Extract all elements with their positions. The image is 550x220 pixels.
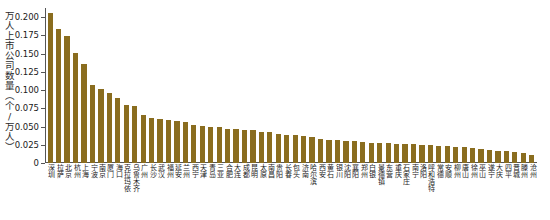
bar[interactable] bbox=[166, 120, 171, 163]
bar[interactable] bbox=[352, 141, 357, 163]
bar[interactable] bbox=[259, 132, 264, 163]
bar[interactable] bbox=[369, 143, 374, 163]
bar[interactable] bbox=[208, 127, 213, 163]
x-tick-label: 杭州 bbox=[72, 164, 80, 178]
bar[interactable] bbox=[411, 144, 416, 163]
bar-slot bbox=[240, 8, 248, 163]
bar[interactable] bbox=[90, 85, 95, 163]
x-tick-label: 巫山 bbox=[478, 164, 486, 178]
x-tick-label: 晋城 bbox=[511, 164, 519, 178]
x-tick-label: 厦门 bbox=[106, 164, 114, 178]
bar[interactable] bbox=[157, 119, 162, 163]
bar[interactable] bbox=[360, 142, 365, 163]
bar-slot bbox=[333, 8, 341, 163]
bar[interactable] bbox=[436, 146, 441, 164]
bar[interactable] bbox=[276, 134, 281, 163]
bar[interactable] bbox=[293, 135, 298, 163]
bar-slot bbox=[173, 8, 181, 163]
x-tick-label: 太原 bbox=[258, 164, 266, 178]
bar[interactable] bbox=[402, 144, 407, 163]
bar[interactable] bbox=[81, 64, 86, 163]
bar[interactable] bbox=[495, 151, 500, 163]
x-tick-label: 大庆 bbox=[494, 164, 502, 178]
bar-slot bbox=[215, 8, 223, 163]
bar-slot bbox=[198, 8, 206, 163]
bar-slot bbox=[164, 8, 172, 163]
bar[interactable] bbox=[470, 148, 475, 163]
bar[interactable] bbox=[512, 152, 517, 163]
y-tick-label: 0.200 bbox=[15, 12, 39, 22]
x-tick-label: 遂宁 bbox=[486, 164, 494, 178]
x-tick-label: 乌鲁木齐 bbox=[131, 164, 139, 192]
x-axis-tick-labels: 深圳拉萨北京杭州上海宁波南京厦门海口克拉玛依乌鲁木齐广州长沙武汉福州延安兰州西宁… bbox=[46, 164, 536, 216]
bar-slot bbox=[97, 8, 105, 163]
bar[interactable] bbox=[191, 125, 196, 163]
bar[interactable] bbox=[419, 145, 424, 163]
bar[interactable] bbox=[394, 144, 399, 163]
bar[interactable] bbox=[64, 36, 69, 163]
bar-slot bbox=[494, 8, 502, 163]
bar-slot bbox=[291, 8, 299, 163]
bar[interactable] bbox=[107, 93, 112, 163]
y-tick-label: 0 bbox=[34, 158, 39, 168]
bar[interactable] bbox=[487, 150, 492, 163]
bar[interactable] bbox=[141, 115, 146, 163]
x-tick-label: 贵阳 bbox=[275, 164, 283, 178]
bar-slot bbox=[54, 8, 62, 163]
bar-slot bbox=[342, 8, 350, 163]
bar[interactable] bbox=[233, 129, 238, 163]
bar[interactable] bbox=[242, 130, 247, 163]
bar[interactable] bbox=[529, 155, 534, 163]
bar[interactable] bbox=[462, 147, 467, 163]
bar[interactable] bbox=[217, 127, 222, 163]
x-tick-label: 洛阳 bbox=[418, 164, 426, 178]
bar[interactable] bbox=[343, 141, 348, 163]
bar[interactable] bbox=[183, 122, 188, 163]
bar[interactable] bbox=[149, 118, 154, 163]
bar-slot bbox=[460, 8, 468, 163]
x-tick-label: 延安 bbox=[173, 164, 181, 178]
bar[interactable] bbox=[326, 140, 331, 163]
bar[interactable] bbox=[115, 98, 120, 163]
bar[interactable] bbox=[453, 147, 458, 163]
x-tick-label: 白银 bbox=[368, 164, 376, 178]
bar-slot bbox=[147, 8, 155, 163]
y-tick-label: 0.100 bbox=[15, 85, 39, 95]
bar[interactable] bbox=[335, 140, 340, 163]
bar[interactable] bbox=[386, 143, 391, 163]
bar[interactable] bbox=[250, 130, 255, 163]
bar[interactable] bbox=[377, 143, 382, 163]
bar[interactable] bbox=[56, 29, 61, 163]
bar[interactable] bbox=[309, 137, 314, 163]
bar-slot bbox=[80, 8, 88, 163]
bar[interactable] bbox=[200, 126, 205, 163]
bar[interactable] bbox=[132, 106, 137, 163]
bar[interactable] bbox=[521, 153, 526, 163]
bar[interactable] bbox=[504, 151, 509, 163]
bar[interactable] bbox=[478, 149, 483, 163]
bar-slot bbox=[71, 8, 79, 163]
bar-slot bbox=[223, 8, 231, 163]
bar[interactable] bbox=[318, 139, 323, 163]
bar[interactable] bbox=[267, 132, 272, 163]
bar-slot bbox=[308, 8, 316, 163]
x-tick-label: 西安 bbox=[317, 164, 325, 178]
x-tick-label: 银川 bbox=[334, 164, 342, 178]
bar[interactable] bbox=[284, 135, 289, 163]
bar[interactable] bbox=[174, 121, 179, 163]
bar[interactable] bbox=[428, 145, 433, 163]
y-tick-mark bbox=[41, 108, 45, 109]
x-tick-label: 景德镇 bbox=[376, 164, 384, 185]
bar[interactable] bbox=[225, 129, 230, 163]
x-tick-label: 拉萨 bbox=[55, 164, 63, 178]
chart-caption bbox=[0, 211, 550, 220]
bar[interactable] bbox=[445, 146, 450, 163]
bar[interactable] bbox=[301, 136, 306, 163]
bar[interactable] bbox=[48, 13, 53, 163]
bar[interactable] bbox=[73, 53, 78, 163]
x-tick-label: 郑州 bbox=[359, 164, 367, 178]
y-tick-label: 0.025 bbox=[15, 140, 39, 150]
x-tick-label: 长沙 bbox=[148, 164, 156, 178]
bar[interactable] bbox=[98, 89, 103, 163]
bar[interactable] bbox=[124, 105, 129, 163]
